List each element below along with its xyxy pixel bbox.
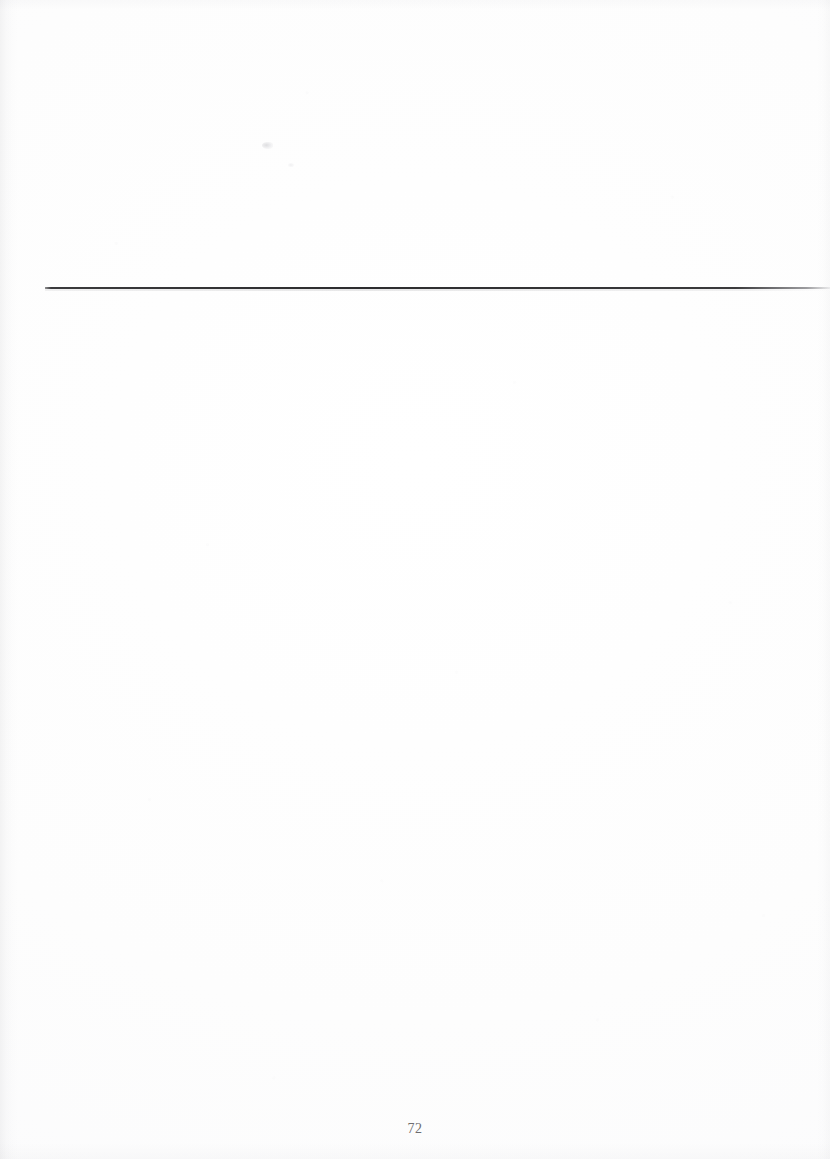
header-horizontal-rule xyxy=(45,287,830,289)
scan-noise-bottom-edge xyxy=(0,1143,830,1159)
scan-shadow-top-edge xyxy=(0,0,830,10)
scan-speck-artifact xyxy=(262,142,273,149)
scan-shadow-left-edge xyxy=(0,0,18,1159)
scanned-page: 72 xyxy=(0,0,830,1159)
scan-speck-artifact-secondary xyxy=(288,163,294,167)
header-rule-ink-bleed xyxy=(45,289,830,291)
page-body-text xyxy=(45,300,830,1100)
page-number: 72 xyxy=(0,1121,830,1137)
